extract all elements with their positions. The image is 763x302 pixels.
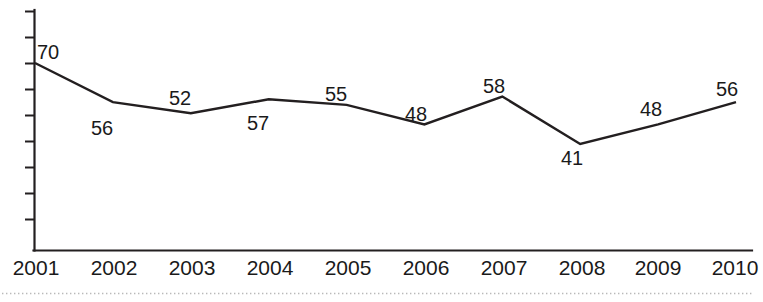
data-label-2010: 56: [716, 79, 738, 99]
data-label-2002: 56: [91, 118, 113, 138]
data-label-2006: 48: [405, 104, 427, 124]
data-label-2005: 55: [325, 84, 347, 104]
x-tick-label-2002: 2002: [78, 257, 150, 278]
x-tick-label-2005: 2005: [312, 257, 384, 278]
data-label-2008: 41: [561, 148, 583, 168]
data-label-2004: 57: [247, 113, 269, 133]
data-label-2001: 70: [37, 42, 59, 62]
y-axis-ticks: [25, 12, 34, 220]
data-label-2007: 58: [483, 76, 505, 96]
x-tick-label-2010: 2010: [699, 257, 763, 278]
x-tick-label-2008: 2008: [546, 257, 618, 278]
x-tick-label-2006: 2006: [390, 257, 462, 278]
series-line: [35, 63, 736, 144]
data-label-2003: 52: [169, 88, 191, 108]
x-tick-label-2007: 2007: [468, 257, 540, 278]
x-tick-label-2004: 2004: [234, 257, 306, 278]
x-tick-label-2001: 2001: [0, 257, 72, 278]
x-tick-label-2009: 2009: [622, 257, 694, 278]
data-label-2009: 48: [640, 99, 662, 119]
x-tick-label-2003: 2003: [156, 257, 228, 278]
